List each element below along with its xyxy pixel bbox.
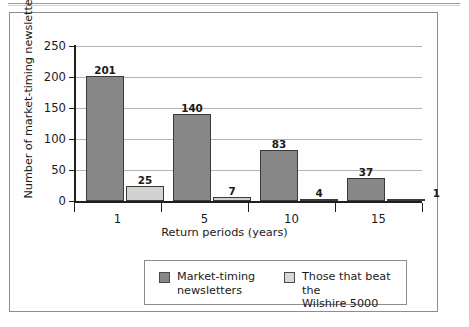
bar-value-label: 140 xyxy=(181,102,203,114)
x-axis-tick xyxy=(74,203,75,212)
y-axis-title: Number of market-timing newsletters xyxy=(22,9,35,199)
x-axis-tick xyxy=(422,203,423,212)
gridline xyxy=(74,46,422,47)
y-axis-line xyxy=(74,45,76,202)
y-axis-tick-label: 50 xyxy=(51,163,66,177)
bar: 201 xyxy=(86,76,124,201)
figure-frame: Number of market-timing newsletters 0501… xyxy=(9,12,438,312)
x-axis-tick-label: 10 xyxy=(284,212,299,226)
page-top-rule xyxy=(8,3,460,4)
legend-swatch-icon xyxy=(284,272,295,283)
x-axis-tick xyxy=(335,203,336,212)
bar-value-label: 1 xyxy=(433,187,440,199)
bar: 25 xyxy=(126,186,164,202)
y-axis-tick-label: 100 xyxy=(44,132,66,146)
y-axis-tick-label: 200 xyxy=(44,70,66,84)
bar-value-label: 25 xyxy=(138,174,152,186)
bar: 37 xyxy=(347,178,385,201)
gridline xyxy=(74,108,422,109)
bar-value-label: 7 xyxy=(228,185,235,197)
bar-value-label: 4 xyxy=(315,187,322,199)
page-top-rule-secondary xyxy=(8,5,460,6)
gridline xyxy=(74,139,422,140)
x-axis-tick xyxy=(161,203,162,212)
y-axis-tick-label: 0 xyxy=(59,194,66,208)
x-axis-title: Return periods (years) xyxy=(10,226,439,239)
chart-area: Number of market-timing newsletters 0501… xyxy=(10,13,439,253)
y-axis-tick-label: 150 xyxy=(44,101,66,115)
chart-legend: Market-timing newsletters Those that bea… xyxy=(144,260,407,305)
bar-value-label: 201 xyxy=(94,64,116,76)
x-axis-tick-label: 1 xyxy=(114,212,121,226)
bar-value-label: 37 xyxy=(359,166,373,178)
legend-entry-secondary: Those that beat the Wilshire 5000 xyxy=(284,270,406,311)
gridline xyxy=(74,77,422,78)
legend-label: Those that beat the Wilshire 5000 xyxy=(302,270,406,311)
legend-label: Market-timing newsletters xyxy=(177,270,255,297)
x-axis-tick-label: 5 xyxy=(201,212,208,226)
bar: 140 xyxy=(173,114,211,201)
legend-entry-primary: Market-timing newsletters xyxy=(159,270,255,297)
x-axis-tick-label: 15 xyxy=(371,212,386,226)
plot-area: 050100150200250 201251407834371 151015 xyxy=(74,46,422,201)
y-axis-tick-label: 250 xyxy=(44,39,66,53)
bar: 83 xyxy=(260,150,298,201)
legend-swatch-icon xyxy=(159,272,170,283)
bar-value-label: 83 xyxy=(272,138,286,150)
x-axis-tick xyxy=(248,203,249,212)
